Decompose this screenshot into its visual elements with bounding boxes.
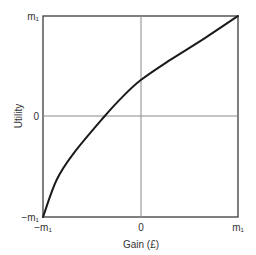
y-tick-top: m₁ (27, 11, 39, 22)
x-axis-title: Gain (£) (123, 239, 159, 250)
y-axis-title: Utility (13, 104, 24, 128)
x-tick-right: m₁ (232, 222, 244, 233)
y-tick-zero: 0 (33, 111, 39, 122)
utility-chart: m₁ 0 −m₁ −m₁ 0 m₁ Gain (£) Utility (0, 0, 256, 255)
x-tick-left: −m₁ (34, 222, 52, 233)
x-tick-zero: 0 (138, 222, 144, 233)
